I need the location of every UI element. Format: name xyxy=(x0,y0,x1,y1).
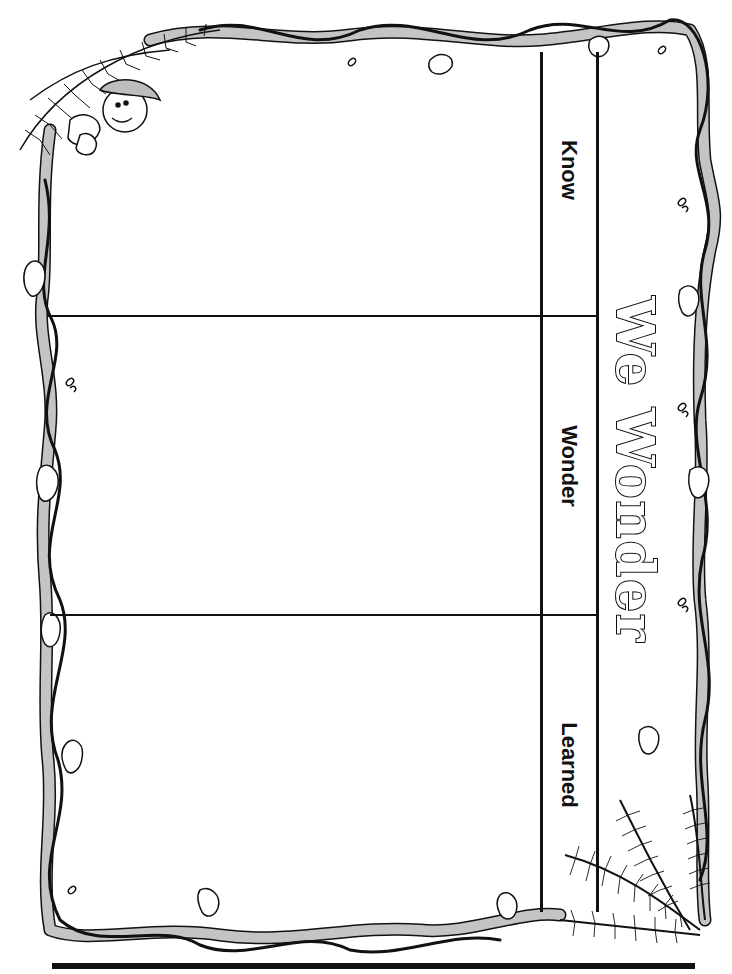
label-column-right-line xyxy=(596,52,599,912)
column-label-wonder: Wonder xyxy=(549,376,589,556)
wonder-writing-area[interactable] xyxy=(55,318,539,612)
column-label-know: Know xyxy=(549,80,589,260)
row-divider-know-wonder xyxy=(48,315,598,317)
know-writing-area[interactable] xyxy=(55,55,539,313)
bottom-rule xyxy=(52,963,695,969)
column-label-learned: Learned xyxy=(549,675,589,855)
learned-writing-area[interactable] xyxy=(55,617,539,909)
label-column-left-line xyxy=(540,52,543,912)
row-divider-wonder-learned xyxy=(50,614,598,616)
kwl-worksheet: Know Wonder Learned We Wonder xyxy=(0,0,732,974)
worksheet-title: We Wonder xyxy=(606,260,666,680)
